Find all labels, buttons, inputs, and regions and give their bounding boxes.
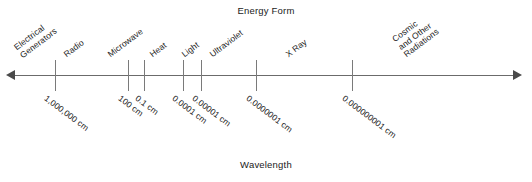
axis-tick [183, 60, 184, 91]
energy-form-label: Ultraviolet [208, 29, 245, 60]
energy-form-label-line: X Ray [284, 38, 309, 60]
energy-form-label-line: Heat [148, 41, 168, 60]
chart-axis-label-wavelength: Wavelength [0, 159, 532, 170]
energy-form-label-line: Ultraviolet [208, 29, 245, 60]
wavelength-value-label: 0.0000001 cm [244, 94, 294, 135]
energy-form-label-line: Radio [62, 38, 86, 59]
energy-form-label: Microwave [106, 27, 145, 60]
axis-line [14, 75, 518, 76]
axis-arrow-right-icon [513, 70, 522, 80]
wavelength-value-label: 0.000000001 cm [340, 94, 397, 141]
energy-form-label: ElectricalGenerators [13, 19, 59, 60]
energy-form-label-line: Microwave [106, 27, 145, 60]
axis-tick [128, 60, 129, 91]
axis-tick [256, 60, 257, 91]
energy-form-label-line: Light [180, 41, 201, 60]
energy-form-label: Heat [148, 41, 168, 60]
wavelength-value-label: 1,000,000 cm [42, 94, 90, 133]
axis-tick [55, 60, 56, 91]
energy-form-label: Cosmicand OtherRadiations [391, 12, 441, 60]
energy-form-label: X Ray [284, 38, 309, 60]
energy-form-label: Light [180, 41, 201, 60]
axis-tick [201, 60, 202, 91]
energy-form-label: Radio [62, 38, 86, 59]
chart-title-energy-form: Energy Form [0, 5, 532, 16]
axis-tick [144, 60, 145, 91]
energy-form-wavelength-diagram: Energy Form ElectricalGeneratorsRadioMic… [0, 0, 532, 182]
axis-arrow-left-icon [6, 70, 15, 80]
axis-tick [352, 60, 353, 91]
